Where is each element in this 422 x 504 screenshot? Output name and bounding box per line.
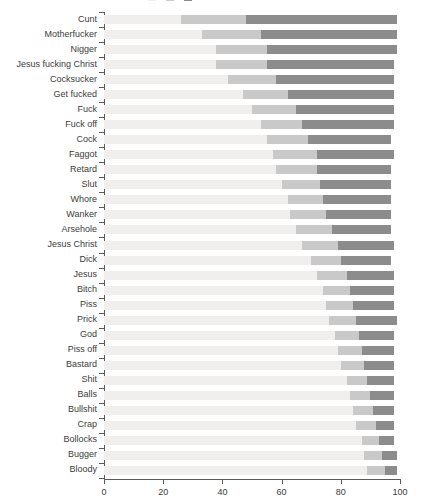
- bar-segment[interactable]: [104, 241, 302, 250]
- bar-segment[interactable]: [104, 376, 347, 385]
- bar-segment[interactable]: [243, 90, 287, 99]
- bar-segment[interactable]: [370, 391, 394, 400]
- bar-segment[interactable]: [341, 361, 365, 370]
- bar-segment[interactable]: [104, 105, 252, 114]
- bar-segment[interactable]: [104, 90, 243, 99]
- y-axis-label: Bloody: [69, 465, 97, 474]
- bar-segment[interactable]: [267, 60, 394, 69]
- bar-segment[interactable]: [104, 15, 181, 24]
- bar-segment[interactable]: [181, 15, 246, 24]
- bar-segment[interactable]: [323, 195, 391, 204]
- bar-segment[interactable]: [311, 256, 341, 265]
- bar-segment[interactable]: [353, 406, 374, 415]
- bar-segment[interactable]: [364, 361, 394, 370]
- bar-segment[interactable]: [216, 45, 266, 54]
- bar-segment[interactable]: [382, 451, 397, 460]
- bar-segment[interactable]: [104, 271, 317, 280]
- bar-segment[interactable]: [356, 421, 377, 430]
- bar-segment[interactable]: [104, 436, 362, 445]
- bar-segment[interactable]: [261, 30, 397, 39]
- bar-segment[interactable]: [104, 135, 267, 144]
- bar-segment[interactable]: [367, 376, 394, 385]
- bar-segment[interactable]: [104, 331, 335, 340]
- bar-segment[interactable]: [104, 165, 276, 174]
- bar-segment[interactable]: [104, 421, 356, 430]
- bar-segment[interactable]: [326, 210, 391, 219]
- bar-segment[interactable]: [104, 361, 341, 370]
- bar-segment[interactable]: [317, 150, 394, 159]
- bar-segment[interactable]: [202, 30, 261, 39]
- bar-segment[interactable]: [104, 406, 353, 415]
- bar-segment[interactable]: [104, 451, 364, 460]
- bar-segment[interactable]: [252, 105, 296, 114]
- bar-segment[interactable]: [308, 135, 391, 144]
- bar-segment[interactable]: [338, 241, 394, 250]
- bar-segment[interactable]: [329, 316, 356, 325]
- bar-segment[interactable]: [296, 105, 394, 114]
- bar-segment[interactable]: [376, 421, 394, 430]
- bar-segment[interactable]: [282, 180, 320, 189]
- bar-segment[interactable]: [104, 225, 296, 234]
- bar-segment[interactable]: [317, 271, 347, 280]
- bar-segment[interactable]: [317, 165, 391, 174]
- bar-segment[interactable]: [323, 286, 350, 295]
- bar-segment[interactable]: [362, 436, 380, 445]
- bar-segment[interactable]: [385, 466, 397, 475]
- bar-segment[interactable]: [373, 406, 394, 415]
- bar-segment[interactable]: [288, 195, 324, 204]
- y-axis-label: Cunt: [78, 15, 97, 24]
- x-axis-tick-label: 60: [277, 487, 287, 497]
- bar-segment[interactable]: [364, 451, 382, 460]
- bar-segment[interactable]: [359, 331, 395, 340]
- bar-segment[interactable]: [362, 346, 395, 355]
- bar-segment[interactable]: [228, 75, 275, 84]
- bar-segment[interactable]: [302, 241, 338, 250]
- bar-segment[interactable]: [276, 75, 394, 84]
- bar-segment[interactable]: [104, 286, 323, 295]
- bar-segment[interactable]: [104, 60, 216, 69]
- bar-segment[interactable]: [367, 466, 385, 475]
- bar-segment[interactable]: [347, 376, 368, 385]
- bar-segment[interactable]: [332, 225, 391, 234]
- bar-segment[interactable]: [104, 466, 367, 475]
- bar-segment[interactable]: [216, 60, 266, 69]
- bar-segment[interactable]: [356, 316, 397, 325]
- bar-segment[interactable]: [379, 436, 394, 445]
- y-axis-label: Bullshit: [68, 405, 97, 414]
- bar-segment[interactable]: [335, 331, 359, 340]
- bar-segment[interactable]: [320, 180, 391, 189]
- bar-segment[interactable]: [267, 45, 397, 54]
- bar-segment[interactable]: [104, 120, 261, 129]
- bar-segment[interactable]: [104, 75, 228, 84]
- bar-segment[interactable]: [341, 256, 391, 265]
- bar-segment[interactable]: [350, 286, 394, 295]
- bar-segment[interactable]: [276, 165, 317, 174]
- bar-segment[interactable]: [104, 30, 202, 39]
- bars-container: [104, 12, 400, 478]
- bar-segment[interactable]: [104, 391, 350, 400]
- bar-segment[interactable]: [267, 135, 308, 144]
- bar-segment[interactable]: [104, 316, 329, 325]
- bar-segment[interactable]: [104, 301, 326, 310]
- bar-segment[interactable]: [104, 180, 282, 189]
- bar-segment[interactable]: [326, 301, 353, 310]
- bar-segment[interactable]: [104, 195, 288, 204]
- bar-segment[interactable]: [296, 225, 332, 234]
- bar-segment[interactable]: [104, 210, 290, 219]
- bar-segment[interactable]: [288, 90, 395, 99]
- legend-swatch-icon: [166, 0, 174, 1]
- bar-segment[interactable]: [350, 391, 371, 400]
- bar-segment[interactable]: [290, 210, 326, 219]
- bar-segment[interactable]: [338, 346, 362, 355]
- bar-segment[interactable]: [104, 256, 311, 265]
- bar-segment[interactable]: [353, 301, 394, 310]
- bar-segment[interactable]: [104, 150, 273, 159]
- bar-segment[interactable]: [347, 271, 394, 280]
- bar-segment[interactable]: [302, 120, 394, 129]
- bar-segment[interactable]: [104, 346, 338, 355]
- bar-segment[interactable]: [246, 15, 397, 24]
- bar-segment[interactable]: [261, 120, 302, 129]
- bar-segment[interactable]: [104, 45, 216, 54]
- x-axis-tick: [341, 479, 342, 484]
- bar-segment[interactable]: [273, 150, 317, 159]
